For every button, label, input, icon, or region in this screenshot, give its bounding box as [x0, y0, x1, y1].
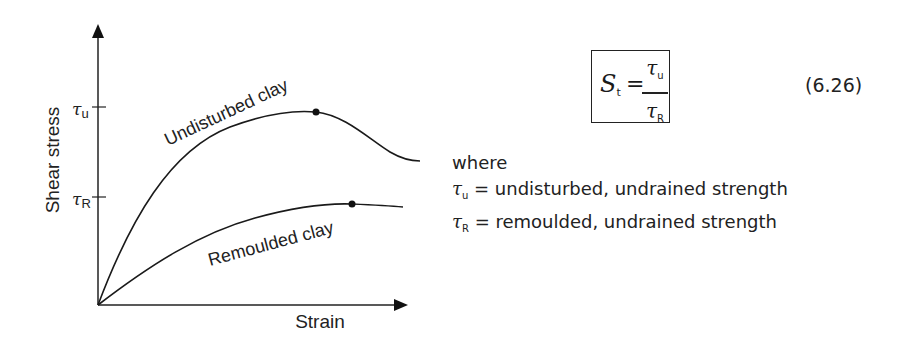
definition-tau-u: τu = undisturbed, undrained strength: [452, 176, 788, 209]
def-symbol: τ: [452, 211, 462, 232]
tick-label-tau-u: τu: [72, 99, 89, 121]
denominator-subscript: R: [657, 113, 664, 124]
x-axis-arrow-icon: [394, 299, 408, 311]
figure-page: τu τR Shear stress Strain Undisturbed cl…: [0, 0, 918, 348]
definitions-intro: where: [452, 150, 788, 176]
def-text: = remoulded, undrained strength: [469, 211, 777, 232]
remoulded-peak-marker: [349, 201, 356, 208]
def-subscript: R: [462, 223, 469, 234]
def-text: = undisturbed, undrained strength: [468, 178, 788, 199]
undisturbed-peak-marker: [313, 109, 320, 116]
lhs-symbol: S: [600, 70, 616, 98]
x-axis-label: Strain: [295, 311, 345, 332]
equation-box: St = τu τR: [591, 50, 670, 123]
remoulded-clay-label: Remoulded clay: [206, 217, 336, 270]
numerator-subscript: u: [657, 70, 663, 81]
equation-lhs: St: [600, 72, 621, 105]
undisturbed-clay-curve: [98, 112, 420, 305]
def-symbol: τ: [452, 178, 462, 199]
stress-strain-chart: τu τR Shear stress Strain Undisturbed cl…: [0, 0, 450, 348]
lhs-subscript: t: [616, 86, 620, 99]
y-axis-arrow-icon: [92, 24, 104, 38]
numerator-symbol: τ: [646, 56, 657, 80]
undisturbed-clay-label: Undisturbed clay: [161, 75, 291, 150]
denominator-symbol: τ: [646, 99, 657, 123]
tick-label-tau-r: τR: [72, 189, 91, 211]
definition-tau-r: τR = remoulded, undrained strength: [452, 209, 788, 242]
y-axis-label: Shear stress: [42, 107, 63, 214]
definitions: where τu = undisturbed, undrained streng…: [452, 150, 788, 242]
equation-fraction: τu τR: [642, 55, 668, 132]
fraction-denominator: τR: [642, 98, 668, 132]
fraction-numerator: τu: [642, 55, 668, 89]
fraction-bar: [642, 92, 668, 94]
equation-number: (6.26): [805, 74, 862, 96]
